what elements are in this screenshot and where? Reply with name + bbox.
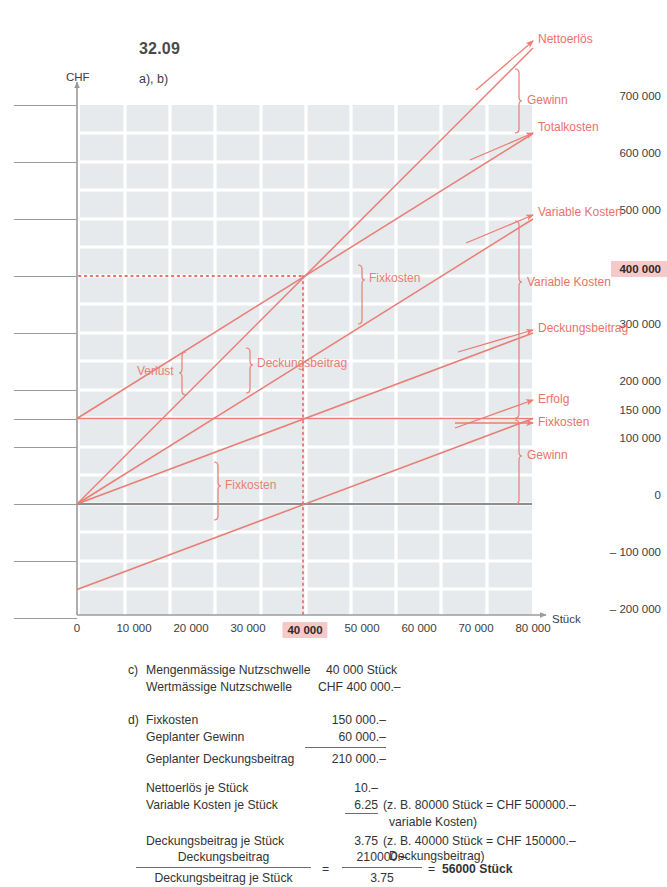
part-c-row-1-value: CHF 400 000.– (318, 679, 401, 696)
formula-right-fraction: 210000.– 3.75 (342, 849, 422, 887)
formula-right-numerator: 210000.– (342, 849, 422, 866)
label-verlust: Verlust (137, 364, 174, 378)
formula-equals-2: = (428, 861, 435, 878)
break-even-chart: 32.09 a), b) CHF Stück 700 000600 000500… (0, 0, 667, 650)
part-d-b1-1-value: 60 000.– (268, 729, 386, 746)
formula-right-denominator: 3.75 (342, 870, 422, 887)
part-d-b1-0-label: Fixkosten (146, 712, 198, 729)
leader-nettoerloes (476, 41, 533, 90)
label-fixkosten-upper: Fixkosten (369, 271, 420, 285)
part-c-row-0-label: Mengenmässige Nutzschwelle (146, 662, 311, 679)
label-fixkosten-lower: Fixkosten (225, 478, 276, 492)
part-c-row-1-label: Wertmässige Nutzschwelle (146, 679, 292, 696)
sum-rule-1 (305, 747, 386, 748)
part-d-b1-1-label: Geplanter Gewinn (146, 729, 244, 746)
formula-left-fraction: Deckungsbeitrag Deckungsbeitrag je Stück (136, 849, 311, 887)
label-deckungsbeitrag-line: Deckungsbeitrag (538, 321, 628, 335)
label-fixkosten-right: Fixkosten (538, 415, 589, 429)
label-nettoerloes: Nettoerlös (538, 32, 593, 46)
label-gewinn-lower: Gewinn (527, 448, 568, 462)
formula-left-rule (136, 867, 311, 868)
part-c-marker: c) (128, 662, 138, 679)
part-d-b2-0-label: Nettoerlös je Stück (146, 780, 248, 797)
part-d-b2-3-label: Deckungsbeitrag je Stück (146, 833, 284, 850)
label-variable-kosten-brk: Variable Kosten (527, 275, 611, 289)
label-gewinn-upper: Gewinn (527, 93, 568, 107)
label-variable-kosten-line: Variable Kosten (538, 205, 622, 219)
formula-left-numerator: Deckungsbeitrag (136, 849, 311, 866)
formula-result: 56000 Stück (442, 861, 512, 878)
label-totalkosten: Totalkosten (538, 120, 599, 134)
part-d-marker: d) (128, 712, 139, 729)
formula-right-rule (342, 867, 422, 868)
part-d-b1-2-value: 210 000.– (268, 751, 386, 768)
part-d-b2-0-value: 10.– (268, 780, 378, 797)
label-erfolg: Erfolg (538, 392, 569, 406)
label-deckungsbeitrag-brk: Deckungsbeitrag (257, 356, 347, 370)
part-d-b2-3-value: 3.75 (268, 833, 378, 850)
part-d-b2-1-value: 6.25 (268, 797, 378, 814)
part-d-b2-2-note: variable Kosten) (389, 814, 477, 831)
part-c-row-0-value: 40 000 Stück (326, 662, 397, 679)
formula-equals-1: = (322, 861, 329, 878)
formula-left-denominator: Deckungsbeitrag je Stück (136, 870, 311, 887)
part-d-b2-1-label: Variable Kosten je Stück (146, 797, 278, 814)
solution-text: c) Mengenmässige Nutzschwelle 40 000 Stü… (0, 650, 667, 874)
part-d-b2-1-note: (z. B. 80000 Stück = CHF 500000.– (383, 797, 576, 814)
part-d-b1-0-value: 150 000.– (268, 712, 386, 729)
sum-rule-2 (345, 813, 378, 814)
